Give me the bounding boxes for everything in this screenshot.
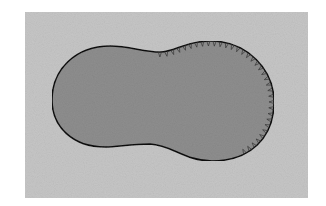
- peanut-region-diagram: [0, 0, 326, 206]
- peanut-region: [52, 41, 274, 161]
